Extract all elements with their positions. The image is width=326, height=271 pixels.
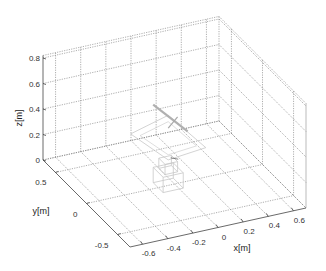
- z-tick: [43, 84, 46, 85]
- x-tick-label: -0.6: [142, 249, 156, 258]
- z-tick: [43, 58, 46, 59]
- x-tick-label: 0.4: [269, 221, 281, 230]
- y-tick-label: 0.5: [35, 178, 47, 187]
- grid-line: [219, 16, 306, 103]
- robot-link: [168, 122, 196, 146]
- z-tick-label: 0.8: [29, 54, 41, 63]
- robot-joint: [159, 158, 165, 164]
- x-axis-label: x[m]: [234, 243, 251, 253]
- x-tick: [141, 241, 143, 244]
- x-tick: [191, 230, 193, 233]
- x-tick-label: 0: [222, 233, 227, 242]
- x-tick: [291, 208, 293, 211]
- robot-link: [168, 146, 196, 155]
- robot-link: [140, 136, 168, 155]
- y-tick: [87, 203, 90, 204]
- y-tick: [118, 234, 121, 235]
- y-tick-label: 0: [73, 210, 78, 219]
- robot-base: [163, 188, 183, 192]
- z-tick-label: 0: [36, 156, 41, 165]
- robot-link: [131, 134, 169, 160]
- robot-end-effector: [153, 105, 187, 132]
- robot-base: [173, 178, 183, 188]
- x-tick-label: -0.4: [167, 244, 181, 253]
- z-tick: [43, 135, 46, 136]
- robot-base: [173, 163, 183, 173]
- x-tick: [166, 236, 168, 239]
- axes: [43, 55, 306, 247]
- y-tick: [55, 171, 58, 172]
- z-tick-label: 0.6: [29, 80, 41, 89]
- y-axis-label: y[m]: [33, 206, 50, 216]
- z-tick: [43, 109, 46, 110]
- grid-lines: [43, 16, 306, 244]
- robot-base: [153, 183, 163, 193]
- z-tick-label: 0.4: [29, 105, 41, 114]
- x-tick: [241, 219, 243, 222]
- z-tick-label: 0.2: [29, 131, 41, 140]
- y-tick-label: -0.5: [95, 241, 109, 250]
- robot-link: [140, 122, 168, 136]
- z-axis-label: z[m]: [14, 110, 24, 127]
- x-tick: [266, 213, 268, 216]
- x-tick: [216, 225, 218, 228]
- x-tick-label: -0.2: [192, 238, 206, 247]
- grid-line: [206, 124, 293, 211]
- x-tick-label: 0.2: [244, 227, 256, 236]
- 3d-plot: 00.20.40.60.8-0.500.5-0.6-0.4-0.200.20.4…: [0, 0, 326, 271]
- x-tick-label: 0.6: [294, 216, 306, 225]
- robot-base: [153, 167, 163, 177]
